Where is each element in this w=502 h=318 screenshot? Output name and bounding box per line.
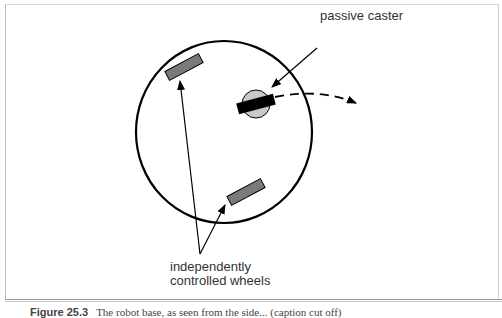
caption-text: The robot base, as seen from the side...… <box>96 306 341 318</box>
caster-pointer-arrow <box>272 48 317 87</box>
wheels-label-line1: independently <box>170 260 270 274</box>
bottom-rule <box>5 299 502 302</box>
caster-motion-arrow <box>275 94 356 103</box>
wheels-label: independently controlled wheels <box>170 260 270 288</box>
wheel-pointer-arrow-upper <box>180 81 200 254</box>
figure-number: Figure 25.3 <box>30 306 88 318</box>
robot-body <box>136 41 312 223</box>
figure-caption: Figure 25.3 The robot base, as seen from… <box>30 306 342 318</box>
wheels-label-line2: controlled wheels <box>170 274 270 288</box>
wheel-lower <box>227 179 265 206</box>
wheel-upper-left <box>165 54 203 81</box>
wheel-pointer-arrow-lower <box>200 205 225 254</box>
caster-label: passive caster <box>320 9 403 23</box>
passive-caster <box>236 90 276 118</box>
